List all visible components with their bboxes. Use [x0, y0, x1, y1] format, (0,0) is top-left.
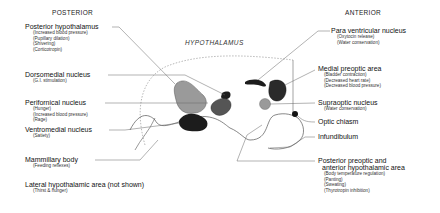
- label-name: Lateral hypothalamic area (not shown): [25, 181, 144, 188]
- label-posterior-preoptic-anterior-hypothalamic-area: Posterior preoptic and anterior hypothal…: [318, 157, 405, 193]
- label-name: Posterior preoptic and: [318, 157, 405, 164]
- label-optic-chiasm: Optic chiasm: [318, 118, 358, 125]
- label-function: (Thyrotropin inhibition): [318, 189, 405, 194]
- label-function: (Feeding reflexes): [25, 164, 78, 169]
- label-name-line2: anterior hypothalamic area: [318, 164, 405, 171]
- label-function: (Water conservation): [318, 107, 378, 112]
- medial-preoptic-shape: [269, 80, 286, 101]
- optic-chiasm-shape: [292, 111, 298, 117]
- label-name: Perifornical nucleus: [25, 99, 88, 106]
- label-function: (Oxytocin release): [331, 35, 406, 40]
- label-infundibulum: Infundibulum: [318, 133, 358, 140]
- label-perifornical-nucleus: Perifornical nucleus (Hunger) (Increased…: [25, 99, 88, 123]
- perifornical-nucleus-shape: [221, 92, 231, 100]
- paraventricular-nucleus-shape: [245, 80, 266, 87]
- hypothalamus-title: HYPOTHALAMUS: [185, 39, 244, 46]
- supraoptic-nucleus-shape: [260, 99, 271, 110]
- label-function: (Hunger): [25, 107, 88, 112]
- label-name: Para ventricular nucleus: [331, 27, 406, 34]
- hypothalamus-diagram: POSTERIOR ANTERIOR HYPOTHALAMUS Posterio…: [0, 0, 440, 213]
- label-name: Posterior hypothalamus: [25, 23, 99, 30]
- label-supraoptic-nucleus: Supraoptic nucleus (Water conservation): [318, 99, 378, 112]
- label-function: (Satiety): [25, 134, 92, 139]
- label-function: (Increased blood pressure): [25, 31, 99, 36]
- label-name: Supraoptic nucleus: [318, 99, 378, 106]
- label-function: (Bladder contraction): [318, 73, 381, 78]
- label-name: Dorsomedial nucleus: [25, 71, 90, 78]
- label-name: Ventromedial nucleus: [25, 126, 92, 133]
- label-paraventricular-nucleus: Para ventricular nucleus (Oxytocin relea…: [331, 27, 406, 45]
- label-posterior-hypothalamus: Posterior hypothalamus (Increased blood …: [25, 23, 99, 52]
- label-lateral-hypothalamic-area: Lateral hypothalamic area (not shown) (T…: [25, 181, 144, 194]
- anterior-header: ANTERIOR: [345, 9, 381, 16]
- label-name: Medial preoptic area: [318, 65, 381, 72]
- posterior-hypothalamus-shape: [211, 98, 231, 115]
- label-function: (Rage): [25, 118, 88, 123]
- label-name: Mammillary body: [25, 156, 78, 163]
- label-mammillary-body: Mammillary body (Feeding reflexes): [25, 156, 78, 169]
- label-name: Infundibulum: [318, 133, 358, 140]
- ventricle-contour: [130, 114, 304, 149]
- label-name: Optic chiasm: [318, 118, 358, 125]
- posterior-header: POSTERIOR: [52, 9, 93, 16]
- label-medial-preoptic-area: Medial preoptic area (Bladder contractio…: [318, 65, 381, 89]
- label-ventromedial-nucleus: Ventromedial nucleus (Satiety): [25, 126, 92, 139]
- label-function: (Corticotropin): [25, 48, 99, 53]
- dorsomedial-nucleus-shape: [174, 81, 206, 114]
- label-function: (G.I. stimulation): [25, 79, 90, 84]
- label-dorsomedial-nucleus: Dorsomedial nucleus (G.I. stimulation): [25, 71, 90, 84]
- label-function: (Decreased blood pressure): [318, 84, 381, 89]
- label-function: (Body temperature regulation): [318, 172, 405, 177]
- label-function: (Water conservation): [331, 41, 406, 46]
- label-function: (Thirst & hunger): [25, 189, 144, 194]
